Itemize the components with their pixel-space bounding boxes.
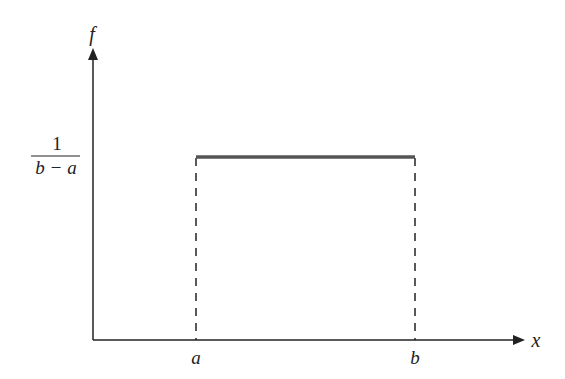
x-tick-a: a (191, 347, 201, 368)
y-axis-arrow-icon (88, 48, 98, 60)
y-tick-numerator: 1 (52, 133, 62, 154)
x-axis-label: x (531, 329, 541, 351)
x-tick-b: b (410, 347, 420, 368)
uniform-pdf-chart: f x a b 1 b − a (0, 0, 565, 379)
y-tick-fraction: 1 b − a (31, 133, 80, 178)
x-axis-arrow-icon (513, 335, 525, 345)
y-axis-label: f (89, 23, 97, 46)
y-tick-denominator: b − a (35, 157, 76, 178)
